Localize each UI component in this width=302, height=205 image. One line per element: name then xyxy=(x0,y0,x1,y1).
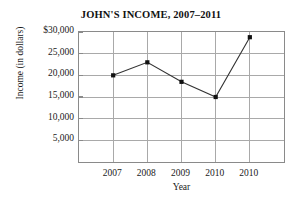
data-point-marker xyxy=(145,60,149,64)
tick-marks xyxy=(79,32,83,140)
plot-area xyxy=(78,31,285,163)
grid-lines xyxy=(79,32,284,162)
data-point-marker xyxy=(214,95,218,99)
chart-figure: JOHN'S INCOME, 2007–2011 Income (in doll… xyxy=(0,0,302,205)
data-point-marker xyxy=(179,80,183,84)
x-tick-label: 2010 xyxy=(225,169,273,179)
data-point-marker xyxy=(111,73,115,77)
data-point-marker xyxy=(248,35,252,39)
plot-svg xyxy=(79,32,284,162)
